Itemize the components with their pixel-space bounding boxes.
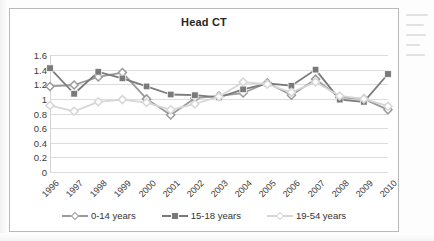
- series-point: [94, 98, 102, 106]
- x-axis-tick-label: 2008: [322, 178, 350, 206]
- x-axis-tick-label: 2001: [153, 178, 181, 206]
- legend-item-3[interactable]: 19-54 years: [267, 210, 346, 221]
- y-axis-tick-label: 0.2: [13, 152, 47, 163]
- y-axis-ticks: 1.61.41.210.80.60.40.20: [10, 55, 47, 172]
- series-point: [191, 100, 199, 108]
- series-point: [70, 81, 78, 89]
- series-point: [143, 83, 150, 90]
- y-axis-tick-label: 1: [13, 93, 47, 104]
- x-axis-ticks: 1996199719981999200020012002200320042005…: [50, 175, 388, 209]
- series-point: [119, 75, 126, 82]
- x-axis-tick-label: 2004: [226, 178, 254, 206]
- series-point: [167, 91, 174, 98]
- x-axis-tick-label: 2002: [178, 178, 206, 206]
- x-axis-tick-label: 1998: [81, 178, 109, 206]
- series-point: [312, 66, 319, 73]
- legend-swatch-icon: [267, 211, 293, 220]
- legend-swatch-icon: [62, 211, 88, 220]
- legend-label: 0-14 years: [91, 210, 136, 221]
- chart-series: [46, 78, 392, 115]
- page-margin-artifact: [406, 14, 432, 56]
- legend-label: 15-18 years: [191, 210, 241, 221]
- legend-item-2[interactable]: 15-18 years: [162, 210, 241, 221]
- y-axis-tick-label: 1.2: [13, 79, 47, 90]
- scan-edge-left: [0, 0, 9, 241]
- scan-edge-bottom: [0, 233, 434, 241]
- chart-legend: 0-14 years15-18 years19-54 years: [10, 210, 398, 221]
- x-axis-tick-label: 2007: [298, 178, 326, 206]
- series-point: [385, 71, 392, 78]
- series-point: [70, 107, 78, 115]
- x-axis-tick-label: 1997: [57, 178, 85, 206]
- y-axis-tick-label: 0: [13, 167, 47, 178]
- legend-item-1[interactable]: 0-14 years: [62, 210, 136, 221]
- series-point: [47, 65, 54, 72]
- x-axis-tick-label: 1999: [105, 178, 133, 206]
- series-point: [71, 90, 78, 97]
- series-point: [46, 101, 54, 109]
- legend-label: 19-54 years: [296, 210, 346, 221]
- gridline: [50, 172, 388, 173]
- x-axis-tick-label: 2000: [129, 178, 157, 206]
- x-axis-tick-label: 2006: [274, 178, 302, 206]
- y-axis-tick-label: 0.6: [13, 123, 47, 134]
- screenshot-canvas: Head CT 1.61.41.210.80.60.40.20 19961997…: [0, 0, 434, 241]
- y-axis-tick-label: 0.4: [13, 137, 47, 148]
- series-point: [239, 78, 247, 86]
- x-axis-tick-label: 1996: [33, 178, 61, 206]
- x-axis-tick-label: 2003: [202, 178, 230, 206]
- x-axis-tick-label: 2010: [371, 178, 399, 206]
- y-axis-tick-label: 1.6: [13, 50, 47, 61]
- chart-title: Head CT: [10, 16, 398, 28]
- legend-swatch-icon: [162, 211, 188, 220]
- series-point: [46, 82, 54, 90]
- series-layer: [50, 55, 388, 172]
- y-axis-tick-label: 0.8: [13, 108, 47, 119]
- x-axis-tick-label: 2009: [347, 178, 375, 206]
- y-axis-tick-label: 1.4: [13, 64, 47, 75]
- series-point: [95, 69, 102, 76]
- series-point: [118, 96, 126, 104]
- chart-container: Head CT 1.61.41.210.80.60.40.20 19961997…: [9, 8, 399, 232]
- x-axis-tick-label: 2005: [250, 178, 278, 206]
- series-point: [192, 92, 199, 99]
